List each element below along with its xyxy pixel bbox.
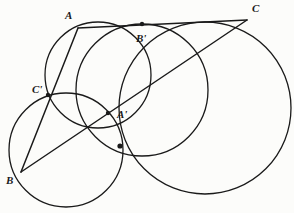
intersection-nodes-group — [46, 22, 144, 149]
node-lower-dot — [117, 143, 122, 148]
point-label-A-prime: A' — [117, 109, 127, 120]
geometry-figure: A B C A' B' C' — [0, 0, 294, 213]
point-label-A: A — [65, 10, 72, 21]
point-label-C-prime: C' — [32, 84, 42, 95]
point-label-B-prime: B' — [136, 33, 146, 44]
geometry-canvas — [0, 0, 294, 213]
circles-group — [9, 22, 291, 207]
node-Ap-dot — [106, 111, 110, 115]
node-Cp-dot — [46, 93, 50, 97]
line-AB — [21, 28, 78, 172]
node-Bp-dot — [140, 22, 144, 26]
point-label-B: B — [6, 175, 13, 186]
point-label-C: C — [252, 3, 259, 14]
lines-group — [21, 20, 247, 172]
line-BC — [21, 20, 247, 172]
circle-lower-left — [9, 93, 123, 207]
